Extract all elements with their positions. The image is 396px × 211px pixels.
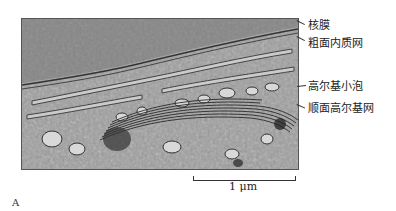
leader-line-golgi-vesicle [297,85,306,87]
electron-micrograph [21,18,299,170]
label-rough-er: 粗面内质网 [308,38,363,50]
panel-letter: A [12,197,19,208]
label-golgi-vesicle: 高尔基小泡 [308,81,363,93]
figure: 核膜 粗面内质网 高尔基小泡 顺面高尔基网 1 μm A [0,0,396,211]
scale-bar-label: 1 μm [229,180,257,193]
label-nuclear-envelope: 核膜 [308,20,330,32]
label-cis-golgi-network: 顺面高尔基网 [308,103,374,115]
